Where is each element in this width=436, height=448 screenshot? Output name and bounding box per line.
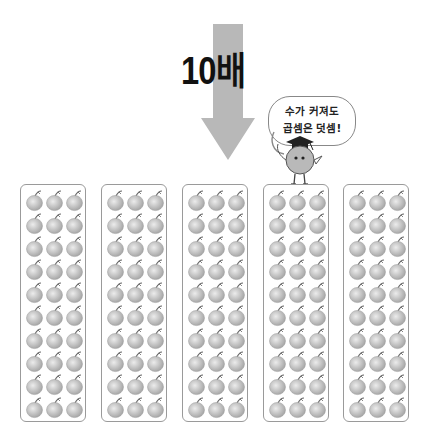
apple-grid bbox=[187, 189, 246, 419]
apple-icon bbox=[126, 281, 145, 304]
apple-icon bbox=[106, 327, 125, 350]
apple-icon bbox=[187, 189, 206, 212]
apple-icon bbox=[227, 281, 246, 304]
apple-icon bbox=[25, 396, 44, 419]
apple-icon bbox=[288, 281, 307, 304]
apple-icon bbox=[106, 235, 125, 258]
apple-panel-3 bbox=[182, 184, 248, 422]
apple-icon bbox=[348, 281, 367, 304]
apple-icon bbox=[45, 281, 64, 304]
apple-panel-1 bbox=[20, 184, 86, 422]
apple-icon bbox=[308, 189, 327, 212]
apple-panel-5 bbox=[343, 184, 409, 422]
apple-icon bbox=[368, 258, 387, 281]
apple-icon bbox=[126, 350, 145, 373]
apple-icon bbox=[65, 258, 84, 281]
apple-icon bbox=[268, 258, 287, 281]
apple-panel-4 bbox=[263, 184, 329, 422]
apple-icon bbox=[227, 327, 246, 350]
apple-icon bbox=[65, 189, 84, 212]
apple-icon bbox=[227, 350, 246, 373]
apple-icon bbox=[106, 189, 125, 212]
apple-icon bbox=[288, 304, 307, 327]
apple-icon bbox=[45, 373, 64, 396]
apple-icon bbox=[348, 258, 367, 281]
apple-icon bbox=[348, 189, 367, 212]
apple-icon bbox=[308, 304, 327, 327]
apple-icon bbox=[388, 258, 407, 281]
apple-icon bbox=[268, 373, 287, 396]
apple-icon bbox=[308, 373, 327, 396]
apple-icon bbox=[388, 373, 407, 396]
apple-icon bbox=[65, 212, 84, 235]
apple-icon bbox=[288, 327, 307, 350]
title-10x: 10배 bbox=[181, 40, 245, 95]
apple-icon bbox=[388, 235, 407, 258]
apple-icon bbox=[25, 350, 44, 373]
speech-bubble-text: 수가 커져도 곱셈은 덧셈! bbox=[268, 103, 356, 137]
apple-icon bbox=[207, 258, 226, 281]
apple-icon bbox=[308, 235, 327, 258]
speech-line-1: 수가 커져도 bbox=[268, 103, 356, 120]
apple-icon bbox=[368, 212, 387, 235]
apple-icon bbox=[65, 235, 84, 258]
apple-icon bbox=[288, 350, 307, 373]
apple-icon bbox=[106, 373, 125, 396]
apple-icon bbox=[146, 327, 165, 350]
apple-icon bbox=[368, 281, 387, 304]
apple-icon bbox=[268, 304, 287, 327]
apple-icon bbox=[187, 212, 206, 235]
apple-grid bbox=[106, 189, 165, 419]
apple-icon bbox=[308, 258, 327, 281]
apple-icon bbox=[268, 189, 287, 212]
apple-icon bbox=[146, 373, 165, 396]
apple-grid bbox=[25, 189, 84, 419]
apple-icon bbox=[25, 235, 44, 258]
apple-icon bbox=[227, 396, 246, 419]
apple-icon bbox=[65, 281, 84, 304]
apple-icon bbox=[146, 235, 165, 258]
apple-icon bbox=[308, 212, 327, 235]
apple-icon bbox=[268, 235, 287, 258]
apple-icon bbox=[25, 281, 44, 304]
apple-icon bbox=[65, 350, 84, 373]
apple-icon bbox=[25, 212, 44, 235]
apple-icon bbox=[25, 304, 44, 327]
apple-icon bbox=[106, 304, 125, 327]
apple-icon bbox=[348, 350, 367, 373]
apple-icon bbox=[227, 212, 246, 235]
apple-icon bbox=[126, 304, 145, 327]
apple-icon bbox=[348, 235, 367, 258]
apple-icon bbox=[45, 304, 64, 327]
apple-icon bbox=[288, 235, 307, 258]
apple-grid bbox=[348, 189, 407, 419]
apple-icon bbox=[187, 373, 206, 396]
apple-icon bbox=[45, 212, 64, 235]
apple-icon bbox=[288, 212, 307, 235]
apple-icon bbox=[348, 304, 367, 327]
apple-icon bbox=[187, 396, 206, 419]
apple-icon bbox=[45, 258, 64, 281]
apple-icon bbox=[146, 396, 165, 419]
apple-icon bbox=[65, 327, 84, 350]
apple-icon bbox=[388, 189, 407, 212]
apple-icon bbox=[106, 212, 125, 235]
apple-icon bbox=[187, 281, 206, 304]
apple-icon bbox=[25, 327, 44, 350]
apple-icon bbox=[207, 327, 226, 350]
apple-icon bbox=[308, 327, 327, 350]
apple-icon bbox=[187, 258, 206, 281]
apple-icon bbox=[388, 304, 407, 327]
apple-icon bbox=[45, 350, 64, 373]
apple-icon bbox=[348, 212, 367, 235]
apple-icon bbox=[207, 189, 226, 212]
apple-icon bbox=[126, 327, 145, 350]
apple-icon bbox=[146, 258, 165, 281]
apple-icon bbox=[268, 350, 287, 373]
apple-icon bbox=[187, 235, 206, 258]
apple-icon bbox=[288, 258, 307, 281]
apple-icon bbox=[368, 350, 387, 373]
apple-icon bbox=[268, 281, 287, 304]
apple-icon bbox=[106, 396, 125, 419]
apple-icon bbox=[207, 350, 226, 373]
